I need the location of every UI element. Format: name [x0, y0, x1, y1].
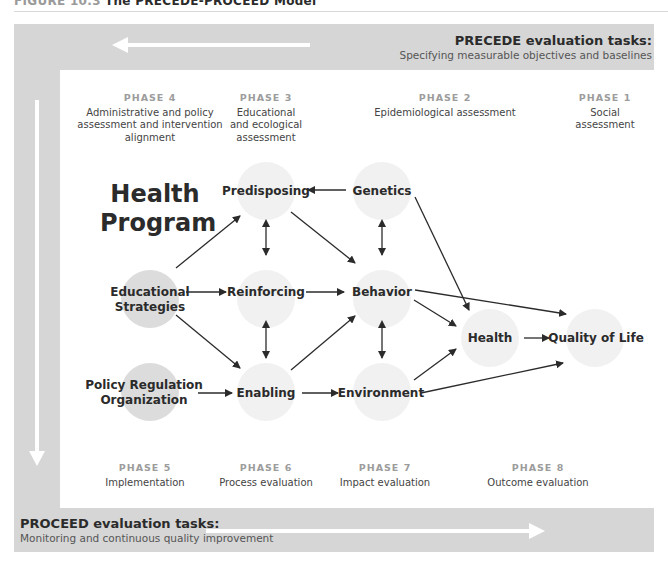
phase-2: PHASE 2 Epidemiological assessment — [360, 92, 530, 119]
phase-label: PHASE 3 — [226, 92, 306, 105]
phase-label: PHASE 8 — [478, 462, 598, 475]
phase-label: PHASE 6 — [206, 462, 326, 475]
phase-description: Epidemiological assessment — [360, 107, 530, 120]
phase-label: PHASE 4 — [75, 92, 225, 105]
phase-description: Administrative and policy assessment and… — [75, 107, 225, 145]
node-genetics: Genetics — [353, 184, 412, 199]
phase-label: PHASE 5 — [85, 462, 205, 475]
proceed-title: PROCEED evaluation tasks: — [20, 516, 273, 531]
left-down-arrow-icon — [29, 100, 45, 466]
phase-3: PHASE 3 Educational and ecological asses… — [226, 92, 306, 144]
phase-description: Social assessment — [565, 107, 645, 132]
phase-description: Outcome evaluation — [478, 477, 598, 490]
phase-5: PHASE 5 Implementation — [85, 462, 205, 489]
node-predisposing: Predisposing — [222, 184, 310, 199]
health-program-heading: Health Program — [100, 180, 210, 238]
precede-subtitle: Specifying measurable objectives and bas… — [400, 49, 652, 61]
node-label-line1: Policy Regulation — [85, 378, 203, 393]
phase-4: PHASE 4 Administrative and policy assess… — [75, 92, 225, 144]
phase-description: Educational and ecological assessment — [226, 107, 306, 145]
node-label-line2: Strategies — [110, 300, 189, 315]
phase-label: PHASE 2 — [360, 92, 530, 105]
node-environment: Environment — [338, 386, 424, 401]
node-health: Health — [468, 331, 513, 346]
node-enabling: Enabling — [237, 386, 296, 401]
health-program-line1: Health — [100, 180, 210, 209]
precede-arrow-icon — [112, 37, 310, 53]
precede-title: PRECEDE evaluation tasks: — [400, 33, 652, 48]
phase-description: Process evaluation — [206, 477, 326, 490]
proceed-tasks: PROCEED evaluation tasks: Monitoring and… — [20, 516, 273, 544]
node-label-line2: Organization — [85, 393, 203, 408]
node-label-line1: Educational — [110, 285, 189, 300]
phase-6: PHASE 6 Process evaluation — [206, 462, 326, 489]
phase-1: PHASE 1 Social assessment — [565, 92, 645, 132]
phase-label: PHASE 7 — [325, 462, 445, 475]
phase-label: PHASE 1 — [565, 92, 645, 105]
phase-8: PHASE 8 Outcome evaluation — [478, 462, 598, 489]
node-behavior: Behavior — [352, 285, 412, 300]
node-policy-regulation-organization: Policy Regulation Organization — [85, 378, 203, 408]
node-educational-strategies: Educational Strategies — [110, 285, 189, 315]
node-reinforcing: Reinforcing — [227, 285, 305, 300]
health-program-line2: Program — [100, 209, 210, 238]
precede-tasks: PRECEDE evaluation tasks: Specifying mea… — [400, 33, 652, 61]
phase-description: Impact evaluation — [325, 477, 445, 490]
proceed-subtitle: Monitoring and continuous quality improv… — [20, 532, 273, 544]
phase-description: Implementation — [85, 477, 205, 490]
phase-7: PHASE 7 Impact evaluation — [325, 462, 445, 489]
node-quality-of-life: Quality of Life — [548, 331, 644, 346]
